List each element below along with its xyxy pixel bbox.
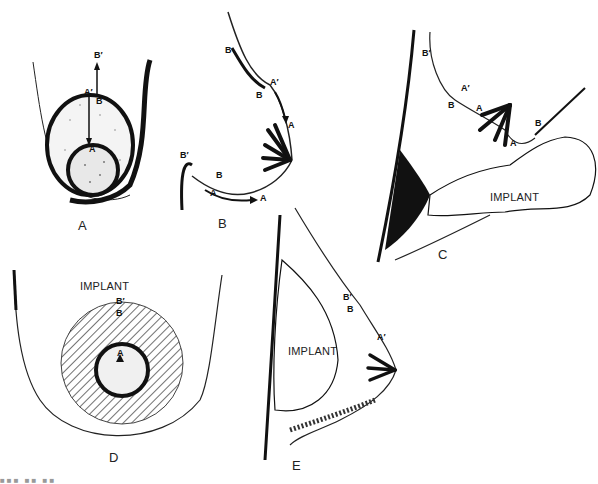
marker-a: A xyxy=(117,348,124,358)
marker-b-prime: B′ xyxy=(116,296,125,306)
implant-label: IMPLANT xyxy=(80,280,129,292)
marker-b-mid: B xyxy=(256,90,263,100)
implant-label: IMPLANT xyxy=(288,345,337,357)
marker-b: B xyxy=(96,96,103,106)
panel-d-drawing xyxy=(0,240,260,476)
figure-caption: ■■■ ■■ ■■ xyxy=(0,476,56,484)
marker-b-prime: B′ xyxy=(422,48,431,58)
marker-b: B xyxy=(347,304,354,314)
marker-a-upper: A xyxy=(288,120,295,130)
marker-b-prime: B′ xyxy=(94,50,103,60)
marker-a-prime: A′ xyxy=(377,332,386,342)
marker-b-prime: B′ xyxy=(343,292,352,302)
panel-a-label: A xyxy=(78,218,87,233)
marker-b: B xyxy=(116,308,123,318)
implant-label: IMPLANT xyxy=(490,191,539,203)
panel-e: B′ B A′ IMPLANT E xyxy=(250,190,420,484)
marker-a-left: A xyxy=(210,188,217,198)
marker-a-prime: A′ xyxy=(84,87,93,97)
panel-e-drawing xyxy=(250,190,420,484)
panel-c-label: C xyxy=(438,247,447,262)
marker-b-prime: B′ xyxy=(180,150,189,160)
marker-b-right: B xyxy=(535,118,542,128)
marker-b-lower: B xyxy=(216,170,223,180)
panel-d: IMPLANT B′ B A D xyxy=(0,240,260,476)
marker-a-prime: A′ xyxy=(461,83,470,93)
marker-b: B xyxy=(448,100,455,110)
marker-a-lower: A xyxy=(510,138,517,148)
panel-e-label: E xyxy=(292,458,301,473)
marker-a: A xyxy=(89,144,96,154)
marker-a-prime: A′ xyxy=(270,77,279,87)
panel-b-label: B xyxy=(218,216,227,231)
panel-d-label: D xyxy=(109,450,118,465)
marker-b-top: B xyxy=(225,45,232,55)
marker-a: A xyxy=(476,103,483,113)
